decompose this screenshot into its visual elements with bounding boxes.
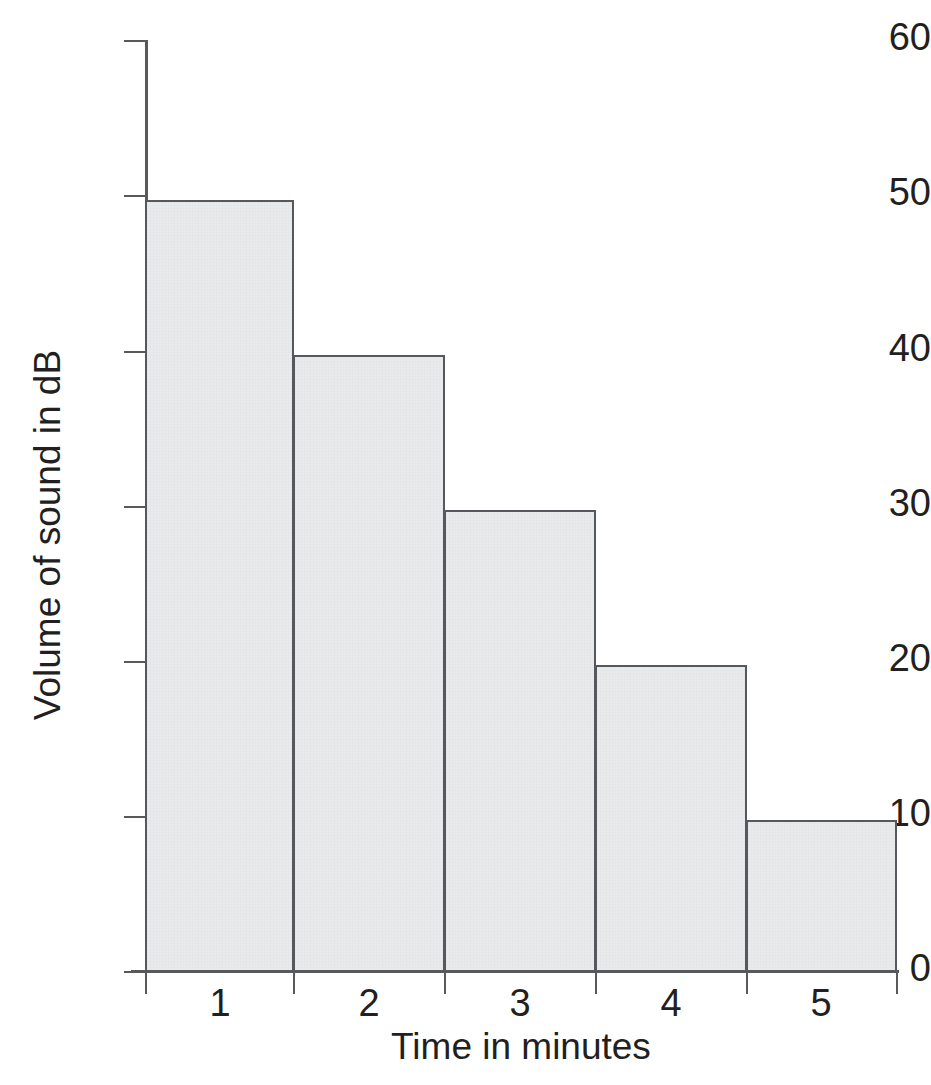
x-tick-label-2: 2 xyxy=(329,984,409,1022)
x-tick-label-3: 3 xyxy=(480,984,560,1022)
y-axis-title: Volume of sound in dB xyxy=(25,345,71,725)
x-tick-label-5: 5 xyxy=(781,984,861,1022)
y-tick-label-40: 40 xyxy=(819,329,931,367)
y-tick-label-50: 50 xyxy=(819,173,931,211)
y-tick-label-20: 20 xyxy=(819,639,931,677)
bar-5 xyxy=(746,820,897,973)
y-tick-mark-60 xyxy=(124,40,146,42)
x-tick-mark-1 xyxy=(293,972,295,994)
y-tick-mark-10 xyxy=(124,816,146,818)
x-tick-mark-2 xyxy=(444,972,446,994)
y-tick-mark-50 xyxy=(124,195,146,197)
y-tick-mark-30 xyxy=(124,506,146,508)
x-tick-mark-4 xyxy=(746,972,748,994)
y-tick-mark-20 xyxy=(124,661,146,663)
y-tick-label-60: 60 xyxy=(819,18,931,56)
bar-1 xyxy=(145,200,294,973)
y-tick-label-30: 30 xyxy=(819,484,931,522)
x-tick-mark-5 xyxy=(896,972,898,994)
x-tick-mark-3 xyxy=(595,972,597,994)
x-tick-label-1: 1 xyxy=(180,984,260,1022)
bar-4 xyxy=(595,665,747,973)
x-axis-line xyxy=(131,970,899,973)
bar-2 xyxy=(293,355,445,973)
x-tick-label-4: 4 xyxy=(631,984,711,1022)
y-tick-mark-40 xyxy=(124,351,146,353)
bar-3 xyxy=(444,510,596,973)
x-tick-mark-0 xyxy=(145,972,147,994)
x-axis-title: Time in minutes xyxy=(146,1026,896,1068)
bar-chart: Volume of sound in dB 60 50 40 30 20 10 … xyxy=(0,0,931,1085)
